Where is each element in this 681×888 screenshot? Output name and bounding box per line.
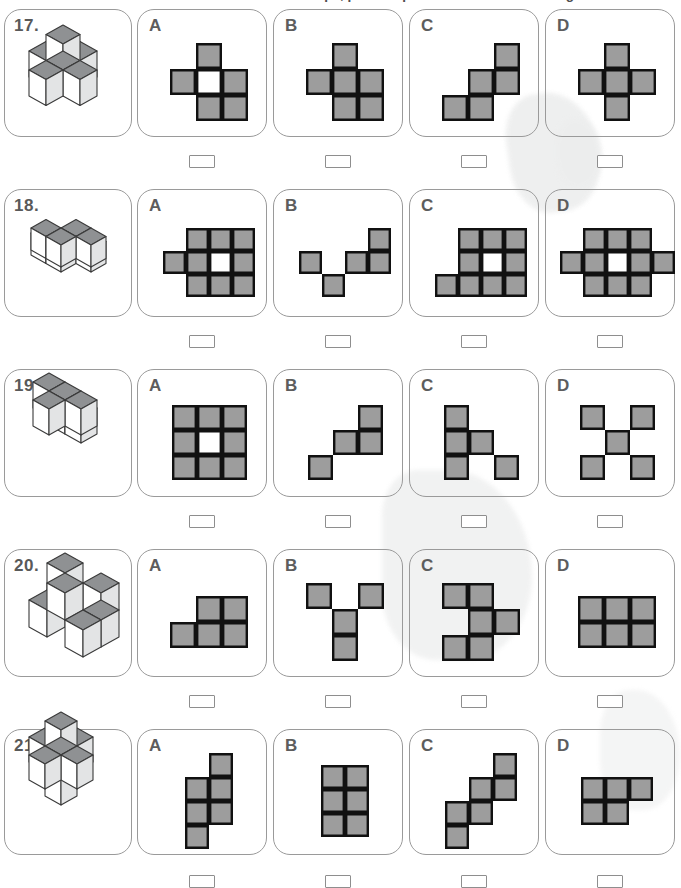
answer-box-b[interactable] xyxy=(325,515,351,528)
option-shape-grid xyxy=(580,405,655,480)
question-card-20: 20. xyxy=(4,549,132,677)
shape-cell-filled xyxy=(604,622,630,648)
option-card-b[interactable]: B xyxy=(273,549,403,677)
option-card-d[interactable]: D xyxy=(545,729,675,855)
shape-cell-filled xyxy=(494,43,520,69)
option-card-c[interactable]: C xyxy=(409,9,539,137)
shape-cell-empty xyxy=(493,825,517,849)
option-card-b[interactable]: B xyxy=(273,9,403,137)
shape-cell-filled xyxy=(504,251,527,274)
answer-box-d[interactable] xyxy=(597,155,623,168)
shape-cell-filled xyxy=(172,405,197,430)
option-letter: C xyxy=(421,736,433,756)
shape-cell-filled xyxy=(358,430,383,455)
shape-cell-filled xyxy=(345,789,369,813)
shape-cell-empty xyxy=(629,801,653,825)
answer-box-c[interactable] xyxy=(461,335,487,348)
option-card-a[interactable]: A xyxy=(137,189,267,317)
shape-cell-hole xyxy=(197,430,222,455)
answer-box-c[interactable] xyxy=(461,515,487,528)
answer-box-a[interactable] xyxy=(189,155,215,168)
shape-cell-filled xyxy=(232,228,255,251)
option-card-d[interactable]: D xyxy=(545,369,675,497)
shape-cell-filled xyxy=(196,622,222,648)
shape-cell-filled xyxy=(458,228,481,251)
answer-box-c[interactable] xyxy=(461,875,487,888)
shape-cell-empty xyxy=(560,228,583,251)
shape-cell-empty xyxy=(494,583,520,609)
option-card-d[interactable]: D xyxy=(545,9,675,137)
option-card-c[interactable]: C xyxy=(409,729,539,855)
answer-box-c[interactable] xyxy=(461,695,487,708)
shape-cell-filled xyxy=(306,583,332,609)
option-shape-grid xyxy=(170,43,248,121)
shape-cell-filled xyxy=(604,69,630,95)
shape-cell-empty xyxy=(494,405,519,430)
shape-cell-empty xyxy=(469,455,494,480)
shape-cell-filled xyxy=(652,251,675,274)
shape-cell-hole xyxy=(606,251,629,274)
option-card-c[interactable]: C xyxy=(409,369,539,497)
shape-cell-filled xyxy=(583,251,606,274)
option-card-a[interactable]: A xyxy=(137,729,267,855)
shape-cell-empty xyxy=(345,274,368,297)
shape-cell-filled xyxy=(481,228,504,251)
shape-cell-filled xyxy=(222,596,248,622)
shape-cell-filled xyxy=(197,405,222,430)
answer-box-a[interactable] xyxy=(189,875,215,888)
shape-cell-filled xyxy=(332,609,358,635)
question-row: 18.ABCD xyxy=(0,189,681,369)
option-letter: B xyxy=(285,736,297,756)
shape-cell-filled xyxy=(196,43,222,69)
answer-box-c[interactable] xyxy=(461,155,487,168)
option-card-a[interactable]: A xyxy=(137,9,267,137)
shape-cell-empty xyxy=(578,43,604,69)
option-card-d[interactable]: D xyxy=(545,189,675,317)
shape-cell-empty xyxy=(333,455,358,480)
answer-box-a[interactable] xyxy=(189,335,215,348)
shape-cell-filled xyxy=(604,596,630,622)
answer-box-b[interactable] xyxy=(325,155,351,168)
shape-cell-filled xyxy=(163,251,186,274)
shape-cell-empty xyxy=(322,228,345,251)
shape-cell-empty xyxy=(358,455,383,480)
answer-box-d[interactable] xyxy=(597,515,623,528)
shape-cell-empty xyxy=(468,43,494,69)
option-letter: B xyxy=(285,196,297,216)
shape-cell-empty xyxy=(222,43,248,69)
shape-cell-filled xyxy=(605,801,629,825)
answer-box-a[interactable] xyxy=(189,695,215,708)
option-card-d[interactable]: D xyxy=(545,549,675,677)
answer-box-d[interactable] xyxy=(597,335,623,348)
shape-cell-empty xyxy=(308,430,333,455)
option-card-b[interactable]: B xyxy=(273,189,403,317)
option-card-b[interactable]: B xyxy=(273,369,403,497)
option-card-c[interactable]: C xyxy=(409,189,539,317)
shape-cell-empty xyxy=(306,95,332,121)
question-row: 21.ABCD xyxy=(0,729,681,859)
answer-box-b[interactable] xyxy=(325,875,351,888)
option-shape-grid xyxy=(578,43,656,121)
question-card-17: 17. xyxy=(4,9,132,137)
shape-cell-empty xyxy=(435,251,458,274)
answer-box-d[interactable] xyxy=(597,695,623,708)
option-card-b[interactable]: B xyxy=(273,729,403,855)
option-card-a[interactable]: A xyxy=(137,369,267,497)
answer-box-d[interactable] xyxy=(597,875,623,888)
shape-cell-filled xyxy=(322,274,345,297)
answer-box-b[interactable] xyxy=(325,335,351,348)
shape-cell-empty xyxy=(442,609,468,635)
shape-cell-empty xyxy=(333,405,358,430)
shape-cell-empty xyxy=(652,228,675,251)
option-letter: A xyxy=(149,556,161,576)
shape-cell-filled xyxy=(332,95,358,121)
option-card-c[interactable]: C xyxy=(409,549,539,677)
shape-cell-filled xyxy=(583,228,606,251)
option-card-a[interactable]: A xyxy=(137,549,267,677)
shape-cell-empty xyxy=(306,609,332,635)
option-shape-grid xyxy=(435,228,527,297)
answer-box-a[interactable] xyxy=(189,515,215,528)
shape-cell-empty xyxy=(445,777,469,801)
instruction-text: each shape, pick the piece that folds in… xyxy=(0,0,681,2)
answer-box-b[interactable] xyxy=(325,695,351,708)
